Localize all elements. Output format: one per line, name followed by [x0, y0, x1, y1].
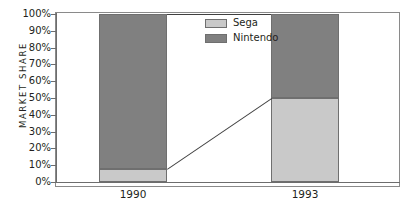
bar-column: [99, 14, 167, 182]
legend-swatch: [205, 19, 227, 28]
y-axis-tick-mark: [51, 182, 56, 183]
y-axis-tick-mark: [51, 132, 56, 133]
y-axis-tick-label: 10%: [5, 160, 51, 170]
y-axis-tick-label: 70%: [5, 59, 51, 69]
y-axis-tick-mark: [51, 81, 56, 82]
legend-item: Sega: [205, 18, 278, 28]
y-axis-tick-label: 50%: [5, 93, 51, 103]
stacked-bar-chart: MARKET SHARE 100%90%80%70%60%50%40%30%20…: [0, 0, 411, 208]
y-axis-tick-labels: 100%90%80%70%60%50%40%30%20%10%0%: [5, 0, 51, 208]
bar-segment-sega: [99, 169, 167, 182]
y-axis-tick-label: 30%: [5, 127, 51, 137]
y-axis-tick-mark: [51, 64, 56, 65]
bar-segment-nintendo: [271, 14, 339, 98]
legend-label: Nintendo: [233, 33, 278, 43]
y-axis-tick-mark: [51, 148, 56, 149]
y-axis-tick-mark: [51, 31, 56, 32]
y-axis-tick-label: 60%: [5, 76, 51, 86]
y-axis-tick-mark: [51, 98, 56, 99]
y-axis-tick-label: 0%: [5, 177, 51, 187]
y-axis-tick-label: 100%: [5, 9, 51, 19]
legend-swatch: [205, 34, 227, 43]
legend-label: Sega: [233, 18, 258, 28]
legend-item: Nintendo: [205, 33, 278, 43]
y-axis-tick-mark: [51, 165, 56, 166]
bar-segment-sega: [271, 98, 339, 182]
y-axis-tick-mark: [51, 48, 56, 49]
y-axis-tick-label: 90%: [5, 26, 51, 36]
y-axis-tick-label: 20%: [5, 143, 51, 153]
bar-segment-nintendo: [99, 14, 167, 169]
connector-line-top: [167, 14, 271, 15]
chart-legend: SegaNintendo: [205, 18, 278, 48]
y-axis-tick-mark: [51, 14, 56, 15]
bar-column: [271, 14, 339, 182]
x-axis-category-label: 1993: [265, 188, 345, 200]
y-axis-tick-label: 80%: [5, 43, 51, 53]
y-axis-tick-label: 40%: [5, 110, 51, 120]
x-axis-line: [56, 182, 400, 183]
y-axis-tick-mark: [51, 115, 56, 116]
x-axis-category-label: 1990: [93, 188, 173, 200]
